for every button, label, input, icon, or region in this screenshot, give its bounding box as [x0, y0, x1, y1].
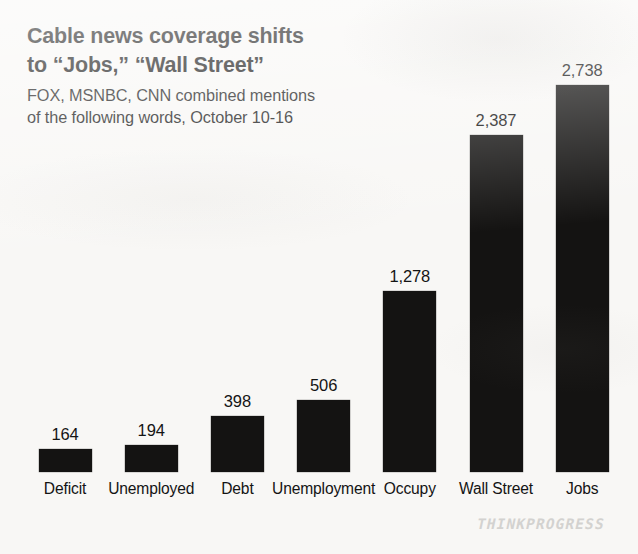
chart-page: Cable news coverage shifts to “Jobs,” “W…: [0, 0, 638, 554]
bar[interactable]: [297, 400, 350, 472]
bar-value-label: 506: [310, 376, 337, 395]
chart-title-line-1: Cable news coverage shifts: [27, 22, 357, 51]
bar-category-label: Wall Street: [459, 480, 533, 498]
bar[interactable]: [211, 416, 264, 472]
chart-header: Cable news coverage shifts to “Jobs,” “W…: [27, 22, 357, 128]
bar-value-label: 398: [224, 392, 251, 411]
bar-value-label: 2,738: [562, 61, 603, 80]
chart-subtitle-line-1: FOX, MSNBC, CNN combined mentions: [27, 84, 357, 106]
bar-value-label: 1,278: [389, 267, 430, 286]
bar-category-label: Deficit: [44, 480, 86, 498]
bar[interactable]: [125, 445, 178, 472]
bar-category-label: Jobs: [566, 480, 598, 498]
bar-category-label: Unemployed: [108, 480, 194, 498]
bar[interactable]: [383, 291, 436, 472]
bar-group: 2,738Jobs: [556, 0, 609, 554]
bar[interactable]: [556, 85, 609, 472]
bar-category-label: Unemployment: [272, 480, 375, 498]
bar-group: 1,278Occupy: [383, 0, 436, 554]
bar-category-label: Occupy: [384, 480, 436, 498]
bar-group: 2,387Wall Street: [470, 0, 523, 554]
chart-subtitle-line-2: of the following words, October 10-16: [27, 106, 357, 128]
bar[interactable]: [470, 135, 523, 472]
bar-value-label: 164: [51, 425, 78, 444]
bar-value-label: 194: [138, 421, 165, 440]
bar[interactable]: [39, 449, 92, 472]
chart-subtitle: FOX, MSNBC, CNN combined mentions of the…: [27, 84, 357, 128]
bar-category-label: Debt: [221, 480, 253, 498]
thinkprogress-watermark: THINKPROGRESS: [476, 516, 607, 532]
chart-title-line-2: to “Jobs,” “Wall Street”: [27, 51, 357, 80]
bar-value-label: 2,387: [476, 111, 517, 130]
